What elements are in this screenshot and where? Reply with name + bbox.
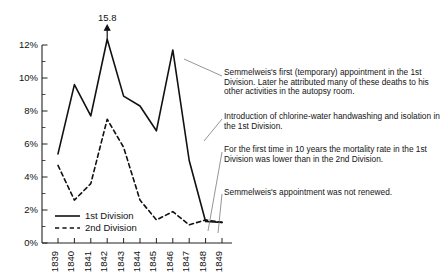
x-axis: 1839184018411842184318441845184618471848… [42,238,232,272]
y-axis-ticks [42,45,48,243]
leader-line-1848 [208,152,222,231]
callout-text-1849: Semmelweis's appointment was not renewed… [224,188,442,198]
y-tick-label: 8% [24,105,38,116]
callout-leader-lines [184,59,222,233]
y-tick-label: 0% [24,237,38,248]
mortality-line-chart: 0%2%4%6%8%10%12% 18391840184118421843184… [0,0,443,280]
x-tick-label: 1844 [131,251,142,272]
callout-text-1848: For the first time in 10 years the morta… [224,145,442,164]
legend-label-1st-division: 1st Division [85,210,134,221]
chart-container: 0%2%4%6%8%10%12% 18391840184118421843184… [0,0,443,280]
x-tick-label: 1840 [65,251,76,272]
series-line-2nd-division [58,119,222,225]
y-tick-label: 2% [24,204,38,215]
series-line-1st-division [58,39,222,222]
y-tick-label: 10% [19,72,39,83]
legend-label-2nd-division: 2nd Division [85,222,137,233]
x-tick-label: 1848 [197,251,208,272]
y-axis: 0%2%4%6%8%10%12% [19,39,48,248]
callout-text-1847: Introduction of chlorine-water handwashi… [224,112,442,131]
leader-line-1846 [184,59,222,76]
x-tick-label: 1843 [115,251,126,272]
y-tick-label: 12% [19,39,39,50]
peak-annotation: 15.8 [98,12,117,39]
x-tick-label: 1841 [82,251,93,272]
plot-series [58,39,222,225]
x-tick-label: 1847 [180,251,191,272]
x-tick-label: 1849 [213,251,224,272]
callout-text-1846: Semmelweis's first (temporary) appointme… [224,68,442,97]
peak-value-label: 15.8 [98,12,117,23]
x-tick-label: 1846 [164,251,175,272]
leader-line-1849 [218,194,222,233]
peak-arrow-head [105,25,110,30]
x-tick-label: 1845 [147,251,158,272]
leader-line-1847 [204,119,222,141]
x-tick-label: 1842 [98,251,109,272]
y-axis-tick-labels: 0%2%4%6%8%10%12% [19,39,39,248]
y-tick-label: 6% [24,138,38,149]
x-axis-tick-labels: 1839184018411842184318441845184618471848… [49,251,224,272]
x-axis-ticks [58,238,222,243]
legend: 1st Division 2nd Division [55,210,137,233]
x-tick-label: 1839 [49,251,60,272]
y-tick-label: 4% [24,171,38,182]
